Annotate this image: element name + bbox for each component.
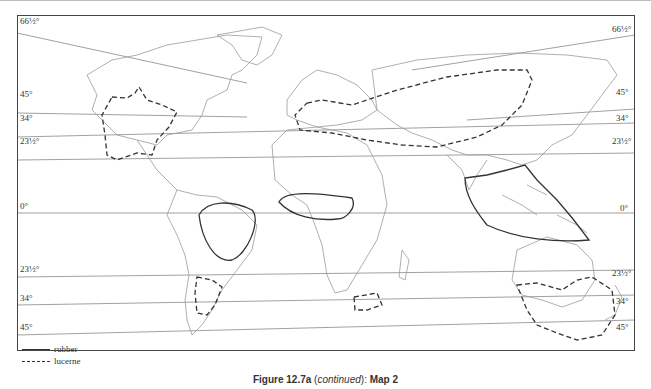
legend-label: lucerne [54, 356, 80, 366]
figure-caption: Figure 12.7a (continued): Map 2 [0, 374, 651, 385]
lat-label-left-45n: 45° [20, 89, 33, 99]
legend-item-rubber: rubber [22, 343, 80, 355]
legend: rubber lucerne [22, 343, 80, 367]
lat-label-right-45s: 45° [616, 322, 629, 332]
lat-label-left-45s: 45° [20, 322, 33, 332]
lat-label-left-34n: 34° [20, 113, 33, 123]
lat-label-left-23n: 23½° [20, 136, 39, 146]
lat-label-left-66: 66½° [20, 16, 39, 26]
lat-label-right-45n: 45° [616, 87, 629, 97]
caption-prefix: Figure 12.7a [253, 374, 311, 385]
caption-italic: continued [317, 374, 360, 385]
solid-line-icon [22, 349, 50, 350]
map-frame [17, 15, 635, 351]
lat-label-right-23n: 23½° [612, 136, 631, 146]
legend-label: rubber [54, 344, 78, 354]
legend-item-lucerne: lucerne [22, 355, 80, 367]
lat-label-right-34s: 34° [616, 296, 629, 306]
lat-label-left-0: 0° [20, 201, 28, 211]
dashed-line-icon [22, 361, 50, 362]
lat-label-left-34s: 34° [20, 293, 33, 303]
lat-label-right-34n: 34° [616, 113, 629, 123]
lat-label-left-23s: 23½° [20, 264, 39, 274]
lat-label-right-66: 66½° [612, 24, 631, 34]
lat-label-right-0: 0° [620, 203, 628, 213]
top-rule [0, 0, 651, 1]
caption-suffix: Map 2 [370, 374, 398, 385]
lat-label-right-23s: 23½° [612, 268, 631, 278]
